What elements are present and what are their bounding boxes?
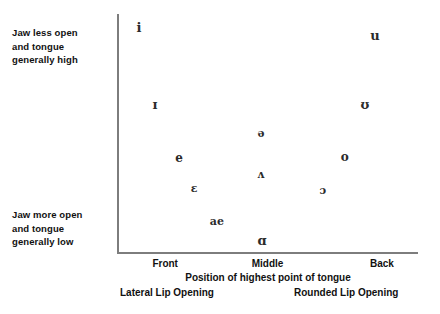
vowel-symbol: e [175, 152, 183, 164]
y-axis-note-high-line-2: and tongue [12, 40, 116, 54]
vowel-chart: Jaw less open and tongue generally high … [0, 0, 440, 314]
vowel-symbol: ʌ [257, 168, 264, 179]
x-tick-middle: Middle [252, 258, 284, 269]
vowel-symbol: ɔ [320, 185, 327, 196]
y-axis-note-low: Jaw more open and tongue generally low [12, 208, 116, 249]
y-axis-note-low-line-3: generally low [12, 235, 116, 249]
vowel-symbol: o [341, 151, 349, 163]
x-axis-caption: Position of highest point of tongue [185, 272, 351, 283]
vowel-symbol: ə [257, 128, 264, 139]
lip-label-rounded: Rounded Lip Opening [294, 287, 398, 298]
vowel-symbol: ɛ [191, 183, 198, 194]
vowel-symbol: i [136, 20, 141, 33]
x-axis-line [117, 252, 418, 254]
y-axis-note-high: Jaw less open and tongue generally high [12, 26, 116, 67]
y-axis-note-low-line-1: Jaw more open [12, 208, 116, 222]
x-tick-front: Front [152, 258, 178, 269]
y-axis-note-high-line-1: Jaw less open [12, 26, 116, 40]
y-axis-line [117, 14, 119, 254]
y-axis-note-low-line-2: and tongue [12, 222, 116, 236]
y-axis-note-high-line-3: generally high [12, 53, 116, 67]
vowel-symbol: ae [210, 216, 224, 227]
vowel-symbol: u [370, 28, 379, 41]
lip-label-lateral: Lateral Lip Opening [120, 287, 214, 298]
vowel-symbol: ɪ [152, 97, 157, 110]
x-tick-back: Back [370, 258, 394, 269]
vowel-symbol: ɑ [258, 234, 267, 247]
vowel-symbol: ʊ [361, 97, 370, 110]
